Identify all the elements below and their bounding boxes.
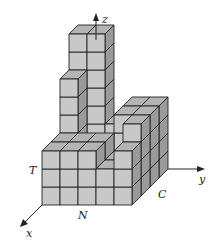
- cube-front-face: [123, 124, 141, 142]
- label-T: T: [29, 164, 38, 177]
- cube-front-face: [78, 187, 96, 205]
- cube-front-face: [87, 70, 105, 88]
- cube-front-face: [60, 115, 78, 133]
- y-axis-label: y: [198, 173, 206, 186]
- cube-front-face: [60, 97, 78, 115]
- cube-front-face: [60, 187, 78, 205]
- cube-front-face: [114, 151, 132, 169]
- cube-front-face: [96, 169, 114, 187]
- cube-front-face: [42, 169, 60, 187]
- cube-front-face: [114, 169, 132, 187]
- cube-front-face: [60, 79, 78, 97]
- x-axis-label: x: [26, 227, 33, 240]
- cube-front-face: [78, 169, 96, 187]
- cube-front-face: [60, 169, 78, 187]
- figure-canvas: z y x T N C: [0, 0, 220, 250]
- z-axis-label: z: [101, 13, 108, 26]
- z-axis-arrow-icon: [93, 13, 99, 21]
- cube-front-face: [60, 151, 78, 169]
- cube-front-face: [96, 187, 114, 205]
- stacked-cubes: [42, 25, 168, 205]
- cube-front-face: [42, 187, 60, 205]
- cube-front-face: [69, 52, 87, 70]
- cube-solid-diagram: z y x T N C: [0, 0, 220, 250]
- cube-front-face: [78, 151, 96, 169]
- cube-front-face: [114, 187, 132, 205]
- cube-front-face: [87, 88, 105, 106]
- cube-front-face: [42, 151, 60, 169]
- cube-front-face: [69, 34, 87, 52]
- label-C: C: [158, 188, 167, 201]
- label-N: N: [77, 209, 88, 222]
- y-axis-arrow-icon: [197, 166, 205, 172]
- x-axis: [24, 205, 42, 223]
- cube-front-face: [87, 52, 105, 70]
- cube-front-face: [87, 106, 105, 124]
